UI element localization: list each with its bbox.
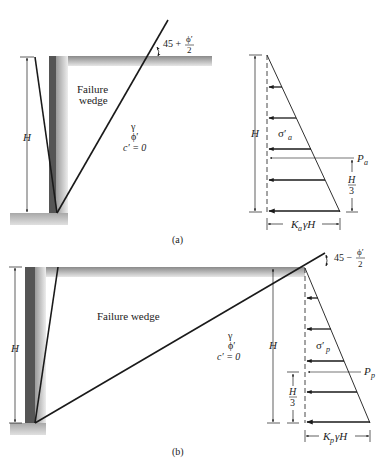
- force-sub-b: p: [370, 371, 375, 380]
- base-label-b-sub: p: [329, 436, 334, 445]
- wall: [25, 267, 35, 424]
- pressure-slope-line: [305, 268, 370, 423]
- caption-a: (a): [172, 234, 183, 246]
- active-pressure-diagram: [249, 55, 358, 230]
- failure-plane: [57, 20, 168, 213]
- angle-label-a-prefix: 45 +: [163, 38, 182, 49]
- angle-label-b-prefix: 45 −: [334, 252, 353, 263]
- third-num-b: H: [288, 386, 297, 397]
- third-den-b: 3: [290, 397, 295, 408]
- wedge-label-a-line2: wedge: [79, 94, 108, 106]
- soil-cohesion-b: c′ = 0: [217, 351, 240, 362]
- diagram-canvas: H Failure wedge γ ϕ′ c′ = 0 45 + ϕ′ 2 H …: [0, 0, 382, 469]
- base-label-a-rest: γH: [303, 218, 316, 230]
- third-den-a: 3: [349, 185, 354, 196]
- pressure-label-b: σ′: [316, 339, 324, 351]
- wedge-label-b: Failure wedge: [97, 310, 160, 322]
- base-label-b-rest: γH: [335, 430, 348, 442]
- force-label-a: P: [356, 152, 364, 164]
- diagram-height-label-a: H: [250, 127, 260, 139]
- angle-arc: [157, 47, 159, 56]
- ground-surface: [56, 56, 212, 66]
- figure-b-retaining-wall: [9, 253, 327, 435]
- force-label-b: P: [363, 365, 371, 377]
- base-ground: [10, 213, 68, 225]
- base-ground: [10, 423, 46, 435]
- soil-phi-a: ϕ′: [131, 131, 138, 142]
- angle-label-a-num: ϕ′: [186, 34, 193, 44]
- caption-b: (b): [172, 446, 184, 458]
- failure-plane: [35, 253, 325, 423]
- passive-pressure-diagram: [267, 268, 370, 442]
- pressure-label-a: σ′: [278, 127, 286, 139]
- pressure-sub-a: a: [288, 133, 292, 142]
- force-sub-a: a: [364, 158, 368, 167]
- angle-label-a-den: 2: [187, 45, 192, 55]
- ground-surface: [35, 267, 305, 277]
- height-label-a: H: [22, 131, 32, 143]
- diagram-height-label-b: H: [268, 339, 278, 351]
- angle-arc: [326, 255, 327, 266]
- angle-label-b-num: ϕ′: [357, 247, 364, 257]
- third-num-a: H: [347, 174, 356, 185]
- angle-label-b-den: 2: [358, 259, 363, 269]
- wall-shadow: [56, 56, 68, 224]
- soil-phi-b: ϕ′: [228, 340, 235, 351]
- soil-cohesion-a: c′ = 0: [123, 142, 146, 153]
- wall: [49, 56, 56, 214]
- figure-a-retaining-wall: [10, 20, 212, 225]
- base-label-a-sub: a: [298, 224, 302, 233]
- pressure-sub-b: p: [325, 345, 330, 354]
- height-label-b: H: [10, 342, 20, 354]
